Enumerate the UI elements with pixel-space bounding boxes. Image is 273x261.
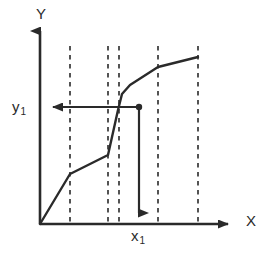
x1-label-base: x — [131, 227, 139, 244]
figure-canvas: Y X y1 x1 — [0, 0, 273, 261]
marker-point — [136, 104, 142, 110]
y1-label-base: y — [12, 98, 20, 115]
axes — [40, 31, 228, 224]
x1-label: x1 — [131, 227, 144, 244]
dashed-reference-lines — [70, 46, 198, 224]
y-axis-label: Y — [36, 5, 46, 22]
plot-svg — [0, 0, 273, 261]
y1-label-subscript: 1 — [21, 106, 27, 117]
y1-label: y1 — [12, 98, 25, 115]
x-axis-label: X — [246, 212, 256, 229]
x1-label-subscript: 1 — [140, 235, 146, 246]
